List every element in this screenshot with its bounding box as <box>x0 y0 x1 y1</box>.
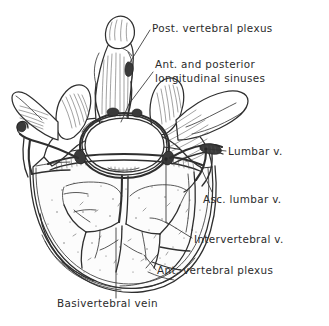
label-basivertebral-vein: Basivertebral vein <box>57 297 158 309</box>
label-ant-vertebral-plexus: Ant. vertebral plexus <box>157 264 273 276</box>
label-lumbar-v: Lumbar v. <box>228 145 283 157</box>
anatomical-figure: Vertebral venous plexus — lumbar vertebr… <box>0 0 329 326</box>
label-post-vertebral-plexus: Post. vertebral plexus <box>152 22 273 34</box>
label-longitudinal-sinuses-line1: Ant. and posterior <box>155 58 256 70</box>
label-intervertebral-v: Intervertebral v. <box>194 233 284 245</box>
label-longitudinal-sinuses-line2: longitudinal sinuses <box>155 72 265 84</box>
vertebra-illustration: Vertebral venous plexus — lumbar vertebr… <box>0 0 329 326</box>
leader-dot-lumbar-v <box>204 147 207 150</box>
leader-dot-intervertebral-v <box>164 157 167 160</box>
label-asc-lumbar-v: Asc. lumbar v. <box>203 193 282 205</box>
